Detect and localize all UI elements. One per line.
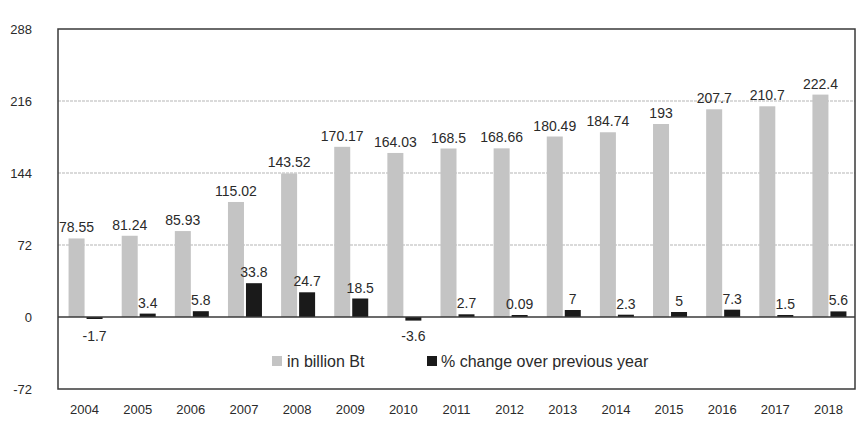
data-label-pct-change-2011: 2.7	[457, 295, 477, 311]
x-tick-label-2010: 2010	[389, 402, 418, 417]
bars	[69, 95, 847, 321]
legend-swatch-pct-change	[427, 356, 437, 366]
bar-billion-bt-2007	[228, 202, 244, 317]
bar-pct-change-2006	[193, 311, 209, 317]
bar-billion-bt-2012	[494, 148, 510, 317]
data-label-pct-change-2012: 0.09	[506, 296, 533, 312]
data-label-pct-change-2015: 5	[675, 293, 683, 309]
bar-pct-change-2016	[724, 310, 740, 317]
data-label-pct-change-2018: 5.6	[829, 292, 849, 308]
data-label-pct-change-2004: -1.7	[83, 328, 107, 344]
x-tick-label-2006: 2006	[176, 402, 205, 417]
x-tick-label-2018: 2018	[814, 402, 843, 417]
data-label-billion-bt-2016: 207.7	[697, 90, 732, 106]
data-label-pct-change-2006: 5.8	[191, 292, 211, 308]
data-label-billion-bt-2015: 193	[649, 105, 673, 121]
data-label-billion-bt-2011: 168.5	[431, 130, 466, 146]
data-label-billion-bt-2009: 170.17	[321, 128, 364, 144]
data-label-billion-bt-2017: 210.7	[750, 87, 785, 103]
bar-billion-bt-2008	[281, 173, 297, 317]
y-tick-label: 216	[10, 94, 32, 109]
data-label-pct-change-2009: 18.5	[347, 280, 374, 296]
data-label-billion-bt-2008: 143.52	[268, 154, 311, 170]
x-tick-label-2009: 2009	[336, 402, 365, 417]
x-tick-label-2013: 2013	[548, 402, 577, 417]
y-tick-label: 144	[10, 166, 32, 181]
bar-pct-change-2009	[352, 299, 368, 318]
data-label-billion-bt-2014: 184.74	[586, 113, 629, 129]
x-tick-label-2015: 2015	[655, 402, 684, 417]
x-tick-label-2014: 2014	[601, 402, 630, 417]
x-tick-label-2012: 2012	[495, 402, 524, 417]
bar-billion-bt-2011	[441, 149, 457, 318]
legend: in billion Bt % change over previous yea…	[272, 353, 649, 370]
x-tick-label-2011: 2011	[443, 402, 471, 417]
legend-label-pct-change: % change over previous year	[441, 353, 649, 370]
bar-billion-bt-2010	[387, 153, 403, 317]
data-label-billion-bt-2004: 78.55	[59, 219, 94, 235]
data-label-billion-bt-2010: 164.03	[374, 134, 417, 150]
bar-pct-change-2018	[830, 311, 846, 317]
data-label-billion-bt-2018: 222.4	[803, 76, 838, 92]
data-label-pct-change-2005: 3.4	[138, 295, 158, 311]
bar-chart: 78.55-1.781.243.485.935.8115.0233.8143.5…	[0, 0, 868, 429]
x-tick-label-2004: 2004	[70, 402, 99, 417]
data-label-billion-bt-2013: 180.49	[533, 118, 576, 134]
bar-pct-change-2007	[246, 283, 262, 317]
y-tick-label: 72	[18, 238, 32, 253]
bar-billion-bt-2015	[653, 124, 669, 317]
data-label-billion-bt-2012: 168.66	[480, 129, 523, 145]
bar-pct-change-2008	[299, 292, 315, 317]
data-label-pct-change-2010: -3.6	[401, 328, 425, 344]
data-label-pct-change-2008: 24.7	[293, 273, 320, 289]
bar-pct-change-2013	[565, 310, 581, 317]
y-axis-ticks: -72072144216288	[10, 22, 32, 397]
legend-label-billion-bt: in billion Bt	[287, 353, 365, 370]
bar-billion-bt-2017	[759, 106, 775, 317]
data-label-pct-change-2013: 7	[569, 291, 577, 307]
y-tick-label: 288	[10, 22, 32, 37]
data-label-pct-change-2007: 33.8	[240, 264, 267, 280]
x-tick-label-2017: 2017	[761, 402, 790, 417]
x-tick-label-2005: 2005	[123, 402, 152, 417]
data-label-billion-bt-2007: 115.02	[215, 183, 257, 199]
data-label-pct-change-2014: 2.3	[616, 296, 636, 312]
x-axis-ticks: 2004200520062007200820092010201120122013…	[70, 402, 843, 417]
bar-billion-bt-2006	[175, 231, 191, 317]
x-tick-label-2016: 2016	[708, 402, 737, 417]
data-label-pct-change-2016: 7.3	[722, 291, 742, 307]
bar-billion-bt-2004	[69, 238, 85, 317]
bar-billion-bt-2018	[812, 95, 828, 317]
bar-billion-bt-2005	[122, 236, 138, 317]
data-label-pct-change-2017: 1.5	[776, 296, 796, 312]
y-tick-label: -72	[13, 382, 32, 397]
data-label-billion-bt-2006: 85.93	[165, 212, 200, 228]
y-tick-label: 0	[25, 310, 32, 325]
bar-billion-bt-2013	[547, 137, 563, 317]
x-tick-label-2008: 2008	[283, 402, 312, 417]
legend-swatch-billion-bt	[272, 356, 282, 366]
x-tick-label-2007: 2007	[230, 402, 259, 417]
data-label-billion-bt-2005: 81.24	[112, 217, 147, 233]
bar-billion-bt-2016	[706, 109, 722, 317]
bar-billion-bt-2014	[600, 132, 616, 317]
